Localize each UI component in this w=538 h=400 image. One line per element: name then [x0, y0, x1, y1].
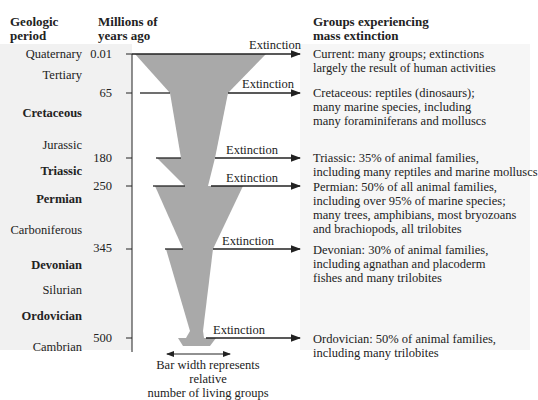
bar-width-caption: Bar width represents relative number of … — [138, 358, 278, 400]
desc-line: largely the result of human activities — [313, 61, 496, 75]
extinction-label-180: Extinction — [226, 143, 278, 157]
extinction-permian: Permian: 50% of all animal families, inc… — [313, 180, 516, 236]
desc-line: many foraminiferans and molluscs — [313, 114, 486, 128]
desc-line: fishes and many trilobites — [313, 271, 488, 285]
desc-line: and brachiopods, all trilobites — [313, 222, 516, 236]
desc-line: Ordovician: 50% of animal families, — [313, 332, 496, 346]
extinction-label-0.01: Extinction — [249, 38, 301, 52]
caption-line: Bar width represents relative — [138, 358, 278, 386]
desc-line: Devonian: 30% of animal families, — [313, 243, 488, 257]
extinction-current: Current: many groups; extinctions largel… — [313, 47, 496, 75]
extinction-label-500: Extinction — [213, 323, 265, 337]
desc-line: including many trilobites — [313, 346, 496, 360]
caption-line: number of living groups — [138, 386, 278, 400]
desc-line: Permian: 50% of all animal families, — [313, 180, 516, 194]
extinction-label-345: Extinction — [222, 234, 274, 248]
extinction-label-65: Extinction — [242, 77, 294, 91]
desc-line: Triassic: 35% of animal families, — [313, 151, 538, 165]
desc-line: including many reptiles and marine mollu… — [313, 165, 538, 179]
desc-line: including over 95% of marine species; — [313, 194, 516, 208]
extinction-triassic: Triassic: 35% of animal families, includ… — [313, 151, 538, 179]
desc-line: many trees, amphibians, most bryozoans — [313, 208, 516, 222]
extinction-ordovician: Ordovician: 50% of animal families, incl… — [313, 332, 496, 360]
desc-line: many marine species, including — [313, 100, 486, 114]
funnel-shape — [135, 54, 266, 346]
desc-line: Cretaceous: reptiles (dinosaurs); — [313, 86, 486, 100]
extinction-label-250: Extinction — [226, 171, 278, 185]
extinction-devonian: Devonian: 30% of animal families, includ… — [313, 243, 488, 285]
desc-line: including agnathan and placoderm — [313, 257, 488, 271]
extinction-cretaceous: Cretaceous: reptiles (dinosaurs); many m… — [313, 86, 486, 128]
desc-line: Current: many groups; extinctions — [313, 47, 496, 61]
